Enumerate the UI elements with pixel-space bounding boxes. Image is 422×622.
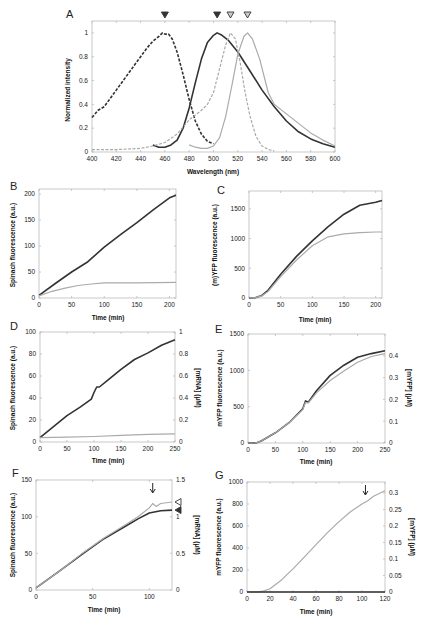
x-tick-label: 0 xyxy=(247,301,251,308)
y-right-tick-label: 0.15 xyxy=(389,539,402,546)
y-tick-label: 1000 xyxy=(230,367,245,374)
x-axis-label-f: Time (min) xyxy=(88,606,121,614)
y-right-tick-label: 0.25 xyxy=(389,506,402,513)
x-axis-label-a: Wavelength (nm) xyxy=(187,168,239,176)
x-tick-label: 200 xyxy=(164,301,175,308)
y-tick-label: 0 xyxy=(240,439,244,446)
y-right-tick-label: 0.2 xyxy=(389,522,398,529)
y-right-tick-label: 0.3 xyxy=(389,489,398,496)
y-right-tick-label: 0 xyxy=(389,588,393,595)
plot-frame xyxy=(39,189,176,298)
y-tick-label: 1500 xyxy=(230,330,245,337)
y-tick-label: 100 xyxy=(21,513,32,520)
y-tick-label: 20 xyxy=(29,416,37,423)
y-tick-label: 400 xyxy=(232,544,243,551)
x-tick-label: 100 xyxy=(89,445,100,452)
y-right-tick-label: 0.1 xyxy=(389,418,398,425)
y-tick-label: 80 xyxy=(29,350,37,357)
y-right-tick-label: 0.4 xyxy=(389,352,398,359)
x-axis-label-g: Time (min) xyxy=(300,608,333,616)
y-tick-label: 600 xyxy=(232,522,243,529)
y-tick-label: 1500 xyxy=(231,205,246,212)
y-tick-label: 100 xyxy=(24,242,35,249)
x-tick-label: 200 xyxy=(370,301,381,308)
panel-label-d: D xyxy=(10,320,18,332)
filled-triangle-marker-icon xyxy=(214,12,221,18)
y-tick-label: 1000 xyxy=(231,235,246,242)
y-tick-label: 0 xyxy=(241,294,245,301)
panel-c: C 050100150200050010001500 Time (min) (m… xyxy=(211,184,382,324)
y-tick-label: 0.2 xyxy=(79,124,88,131)
y-right-tick-label: 0.5 xyxy=(176,550,185,557)
x-tick-label: 420 xyxy=(111,155,122,162)
x-tick-label: 50 xyxy=(63,445,71,452)
y-tick-label: 500 xyxy=(233,403,244,410)
y-tick-label: 0.8 xyxy=(79,53,88,60)
x-tick-label: 0 xyxy=(246,446,250,453)
x-tick-label: 560 xyxy=(281,155,292,162)
series-line-light xyxy=(39,282,176,296)
y-right-tick-label: 0.2 xyxy=(389,396,398,403)
y-right-axis-label-g: [mYFP] (µM) xyxy=(408,518,416,556)
y-right-tick-label: 0.6 xyxy=(179,372,188,379)
y-tick-label: 0 xyxy=(32,438,36,445)
x-tick-label: 540 xyxy=(257,155,268,162)
y-tick-label: 1 xyxy=(84,29,88,36)
series-line-light xyxy=(36,502,172,588)
x-tick-label: 0 xyxy=(37,301,41,308)
x-tick-label: 100 xyxy=(297,446,308,453)
x-tick-label: 520 xyxy=(232,155,243,162)
x-tick-label: 50 xyxy=(272,446,280,453)
y-axis-label-f: Spinach fluorescence (a.u.) xyxy=(9,493,17,578)
y-tick-label: 50 xyxy=(25,550,33,557)
y-axis-label-c: (m)YFP fluorescence (a.u.) xyxy=(211,204,219,286)
series-line-dark xyxy=(39,195,176,295)
panel-label-e: E xyxy=(215,323,222,335)
y-axis-label-e: mYFP fluorescence (a.u.) xyxy=(216,349,224,427)
panel-e: E 05010015020025005001000150000.10.20.30… xyxy=(215,323,413,466)
x-tick-label: 500 xyxy=(208,155,219,162)
series-line-myfp-excitation xyxy=(92,33,274,151)
y-right-tick-label: 0 xyxy=(179,438,183,445)
y-right-tick-label: 0.1 xyxy=(389,555,398,562)
y-tick-label: 0 xyxy=(239,588,243,595)
x-tick-label: 40 xyxy=(289,595,297,602)
x-tick-label: 600 xyxy=(330,155,341,162)
series-line-light xyxy=(248,354,385,443)
x-tick-label: 150 xyxy=(339,301,350,308)
figure: A 40042044046048050052054056058060000.20… xyxy=(0,0,422,622)
series-line-light xyxy=(40,434,175,438)
x-tick-label: 400 xyxy=(87,155,98,162)
y-right-tick-label: 0 xyxy=(389,439,393,446)
plot-c-area: 050100150200050010001500 xyxy=(231,191,382,308)
x-tick-label: 0 xyxy=(34,593,38,600)
y-axis-label-b: Spinach fluorescence (a.u.) xyxy=(9,203,17,288)
x-tick-label: 120 xyxy=(380,595,391,602)
x-axis-label-c: Time (min) xyxy=(299,316,332,324)
x-tick-label: 20 xyxy=(266,595,274,602)
x-tick-label: 200 xyxy=(143,445,154,452)
y-tick-label: 0.4 xyxy=(79,101,88,108)
y-right-tick-label: 1 xyxy=(179,328,183,335)
y-right-tick-label: 0 xyxy=(176,586,180,593)
x-tick-label: 200 xyxy=(352,446,363,453)
panel-a: A 40042044046048050052054056058060000.20… xyxy=(64,8,341,176)
series-line-dark xyxy=(40,340,175,438)
y-right-axis-label-d: [mRNA] (µM) xyxy=(194,368,202,408)
y-tick-label: 0 xyxy=(84,148,88,155)
x-tick-label: 0 xyxy=(38,445,42,452)
x-axis-label-d: Time (min) xyxy=(92,457,125,465)
x-tick-label: 100 xyxy=(307,301,318,308)
y-tick-label: 200 xyxy=(24,190,35,197)
x-tick-label: 250 xyxy=(170,445,181,452)
x-tick-label: 250 xyxy=(380,446,391,453)
y-right-tick-label: 1 xyxy=(176,513,180,520)
filled-triangle-marker-icon xyxy=(161,12,168,18)
x-tick-label: 100 xyxy=(144,593,155,600)
open-triangle-marker-icon xyxy=(227,12,234,18)
y-axis-label-d: Spinach fluorescence (a.u.) xyxy=(9,346,17,431)
y-tick-label: 150 xyxy=(24,216,35,223)
x-tick-label: 580 xyxy=(305,155,316,162)
y-tick-label: 150 xyxy=(21,476,32,483)
panel-label-a: A xyxy=(66,8,74,20)
